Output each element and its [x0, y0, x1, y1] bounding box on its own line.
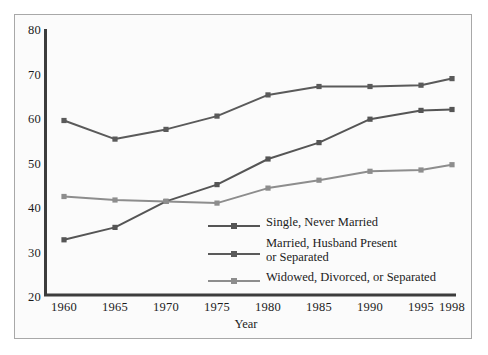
series-marker	[367, 117, 372, 122]
series-marker	[367, 84, 372, 89]
series-marker	[61, 118, 66, 123]
series-marker	[61, 194, 66, 199]
series-marker	[112, 225, 117, 230]
series-marker	[449, 162, 454, 167]
series-marker	[163, 127, 168, 132]
series-marker	[449, 107, 454, 112]
series-marker	[367, 169, 372, 174]
legend-label-single: Single, Never Married	[266, 216, 378, 230]
y-tick-label-30: 30	[15, 246, 41, 261]
series-marker	[163, 199, 168, 204]
series-marker	[316, 84, 321, 89]
series-marker	[265, 186, 270, 191]
series-marker	[214, 114, 219, 119]
series-marker	[265, 156, 270, 161]
series-marker	[418, 167, 423, 172]
series-line	[64, 79, 452, 140]
series-line	[64, 110, 452, 240]
series-marker	[61, 237, 66, 242]
x-tick-label-1998: 1998	[428, 300, 476, 315]
legend-swatch-widowed	[208, 280, 260, 282]
chart-figure: 80 70 60 50 40 30 20 1960 1965 1970 1975…	[0, 0, 488, 355]
x-tick-label-1970: 1970	[142, 300, 190, 315]
x-tick-label-1960: 1960	[40, 300, 88, 315]
y-tick-label-40: 40	[15, 201, 41, 216]
series-marker	[112, 137, 117, 142]
y-tick-label-60: 60	[15, 112, 41, 127]
series-marker	[316, 178, 321, 183]
legend-label-widowed: Widowed, Divorced, or Separated	[266, 271, 436, 285]
legend-swatch-married	[208, 253, 260, 255]
x-tick-label-1965: 1965	[91, 300, 139, 315]
series-marker	[112, 197, 117, 202]
series-marker	[418, 83, 423, 88]
y-tick-label-70: 70	[15, 68, 41, 83]
x-tick-label-1985: 1985	[295, 300, 343, 315]
x-axis-title: Year	[216, 317, 276, 332]
data-series-group	[61, 76, 454, 242]
legend-label-married: Married, Husband Present or Separated	[266, 237, 397, 264]
y-tick-label-80: 80	[15, 23, 41, 38]
x-tick-label-1990: 1990	[346, 300, 394, 315]
series-line	[64, 165, 452, 203]
y-tick-label-20: 20	[15, 290, 41, 305]
series-marker	[316, 140, 321, 145]
series-marker	[265, 92, 270, 97]
y-tick-label-50: 50	[15, 157, 41, 172]
x-tick-label-1980: 1980	[244, 300, 292, 315]
series-marker	[214, 201, 219, 206]
series-marker	[418, 108, 423, 113]
series-marker	[214, 182, 219, 187]
legend-swatch-single	[208, 225, 260, 227]
x-tick-label-1975: 1975	[193, 300, 241, 315]
series-marker	[449, 76, 454, 81]
